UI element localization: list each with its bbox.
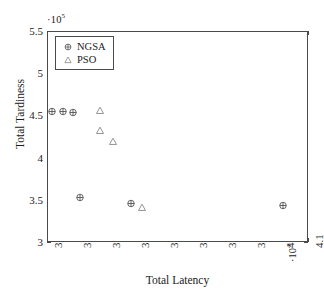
legend-item-ngsa[interactable]: NGSA bbox=[60, 40, 106, 53]
scatter-plot-figure: ·105 ·104 Total Tardiness Total Latency … bbox=[0, 0, 324, 305]
legend-label: PSO bbox=[75, 54, 96, 65]
y-tick-mark bbox=[304, 242, 308, 243]
data-point-ngsa bbox=[278, 196, 287, 214]
data-point-pso bbox=[96, 121, 105, 139]
y-tick-label: 5.5 bbox=[1, 25, 43, 37]
triangle-up-icon bbox=[60, 56, 75, 64]
circle-plus-icon bbox=[60, 43, 75, 51]
y-axis-exponent: ·105 bbox=[47, 12, 65, 25]
y-tick-label: 4.5 bbox=[1, 109, 43, 121]
legend-label: NGSA bbox=[75, 41, 106, 52]
data-point-pso bbox=[138, 198, 147, 216]
data-point-ngsa bbox=[48, 102, 57, 120]
x-tick-mark bbox=[308, 238, 309, 242]
y-tick-label: 3.5 bbox=[1, 194, 43, 206]
data-point-pso bbox=[109, 132, 118, 150]
data-point-ngsa bbox=[75, 188, 84, 206]
data-point-pso bbox=[96, 101, 105, 119]
y-tick-label: 4 bbox=[1, 152, 43, 164]
data-point-ngsa bbox=[126, 194, 135, 212]
legend: NGSAPSO bbox=[55, 36, 114, 70]
y-tick-mark bbox=[47, 242, 51, 243]
y-tick-label: 5 bbox=[1, 67, 43, 79]
x-tick-label: 4.1 bbox=[313, 234, 324, 248]
legend-item-pso[interactable]: PSO bbox=[60, 53, 106, 66]
x-tick-label: 4 bbox=[284, 243, 296, 249]
x-axis-exponent-base: ·10 bbox=[287, 248, 298, 262]
x-tick-mark bbox=[308, 31, 309, 35]
y-axis-exponent-power: 5 bbox=[62, 12, 66, 20]
data-point-ngsa bbox=[68, 103, 77, 121]
x-axis-title: Total Latency bbox=[47, 274, 308, 286]
y-axis-exponent-base: ·10 bbox=[47, 14, 62, 25]
data-point-ngsa bbox=[58, 102, 67, 120]
y-tick-label: 3 bbox=[1, 236, 43, 248]
